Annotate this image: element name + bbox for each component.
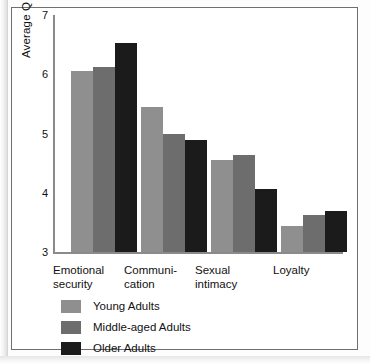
figure-frame: Average Q sort score 34567 Emotional sec…: [11, 7, 358, 350]
legend-swatch-icon: [61, 300, 81, 313]
legend-item: Middle-aged Adults: [61, 319, 311, 335]
bar: [255, 189, 277, 252]
bar: [71, 71, 93, 252]
bar: [163, 134, 185, 253]
bar: [141, 107, 163, 252]
x-axis-label-2: Communi- cation: [124, 264, 177, 291]
chart-legend: Young AdultsMiddle-aged AdultsOlder Adul…: [61, 298, 311, 361]
bars-layer: [55, 15, 343, 253]
bar: [281, 226, 303, 252]
x-axis-label-3: Sexual intimacy: [195, 264, 237, 291]
legend-swatch-icon: [61, 321, 81, 334]
x-axis-category-labels: Emotional securityCommuni- cationSexual …: [53, 264, 353, 294]
y-axis-tick-4: 4: [42, 187, 48, 198]
bar: [325, 211, 347, 252]
bar: [303, 215, 325, 252]
y-axis-title: Average Q sort score: [20, 0, 32, 58]
legend-item-label: Older Adults: [93, 342, 156, 354]
bar: [233, 155, 255, 252]
legend-item: Older Adults: [61, 340, 311, 356]
legend-item-label: Middle-aged Adults: [93, 321, 191, 333]
bar: [211, 160, 233, 252]
x-axis-label-4: Loyalty: [273, 264, 309, 278]
y-axis-tick-5: 5: [42, 128, 48, 139]
bar: [93, 67, 115, 252]
y-axis-tick-3: 3: [42, 247, 48, 258]
legend-item-label: Young Adults: [93, 300, 160, 312]
legend-swatch-icon: [61, 342, 81, 355]
x-axis-label-1: Emotional security: [53, 264, 104, 291]
page-edge-shadow-left: [0, 0, 8, 364]
legend-item: Young Adults: [61, 298, 311, 314]
bar: [185, 140, 207, 252]
y-axis-tick-6: 6: [42, 69, 48, 80]
bar: [115, 43, 137, 252]
scanned-page-background: Average Q sort score 34567 Emotional sec…: [0, 0, 370, 364]
plot-area: 34567: [53, 15, 343, 261]
y-axis-tick-7: 7: [42, 10, 48, 21]
